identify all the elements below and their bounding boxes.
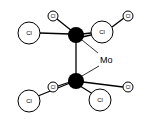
svg-text:Cl: Cl bbox=[126, 84, 131, 90]
svg-text:Cl: Cl bbox=[97, 97, 103, 103]
cl-bottom-small-atom: Cl bbox=[48, 82, 58, 92]
bond-top-small bbox=[57, 19, 72, 31]
svg-text:Cl: Cl bbox=[51, 84, 56, 90]
cl-top-small-atom: Cl bbox=[48, 11, 58, 21]
cl-top-right-atom: Cl bbox=[91, 21, 113, 43]
cl-top-far-right-atom: Cl bbox=[123, 11, 133, 21]
cl-bottom-left-atom: Cl bbox=[18, 90, 40, 112]
svg-text:Cl: Cl bbox=[26, 98, 32, 104]
mo-leader-bottom bbox=[82, 66, 99, 76]
svg-text:Cl: Cl bbox=[126, 13, 131, 19]
bond-top-left bbox=[40, 33, 70, 34]
svg-text:Cl: Cl bbox=[26, 30, 32, 36]
cl-bottom-right-atom: Cl bbox=[89, 89, 111, 111]
bond-top-far-right bbox=[112, 18, 124, 27]
cl-bottom-far-right-atom: Cl bbox=[123, 82, 133, 92]
svg-text:Cl: Cl bbox=[99, 29, 105, 35]
svg-text:Cl: Cl bbox=[51, 13, 56, 19]
mo-top-atom bbox=[68, 27, 84, 43]
mo-bottom-atom bbox=[68, 73, 84, 89]
bond-bottom-far-right bbox=[83, 82, 123, 87]
mo-leader-top bbox=[82, 40, 98, 53]
cl-top-left-atom: Cl bbox=[18, 22, 40, 44]
mo2cl8-structure-diagram: Cl Cl Cl Cl Cl Cl Cl Cl Mo bbox=[0, 0, 146, 121]
mo-label: Mo bbox=[100, 55, 113, 65]
